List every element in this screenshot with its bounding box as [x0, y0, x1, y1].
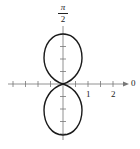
tick-label-1: 1	[86, 90, 91, 99]
axis-arrow-icon	[123, 82, 129, 87]
polar-axis-zero-label: 0	[131, 79, 136, 88]
pi-over-2-label: π 2	[58, 3, 68, 24]
pi-numerator: π	[58, 3, 68, 14]
tick-label-2: 2	[111, 90, 116, 99]
pi-denominator: 2	[58, 14, 68, 24]
polar-plot	[0, 0, 140, 149]
